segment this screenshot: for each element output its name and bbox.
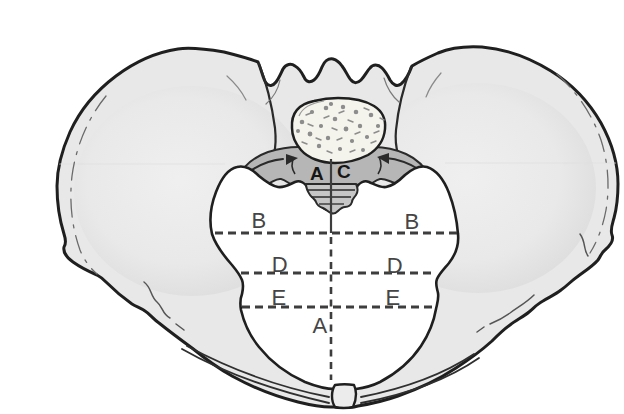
label-e-left: E xyxy=(271,287,286,309)
label-d-left: D xyxy=(272,254,288,276)
label-b-right: B xyxy=(404,211,419,233)
pubic-symphysis xyxy=(332,384,356,408)
label-c-top: C xyxy=(337,162,351,181)
label-b-left: B xyxy=(251,210,266,232)
label-d-right: D xyxy=(387,255,403,277)
label-a-bottom: A xyxy=(312,315,327,337)
label-a-top: A xyxy=(310,164,324,183)
label-e-right: E xyxy=(385,287,400,309)
pelvic-inlet-figure: A C B B D D E E A xyxy=(40,16,624,414)
pelvis-illustration xyxy=(40,16,624,414)
